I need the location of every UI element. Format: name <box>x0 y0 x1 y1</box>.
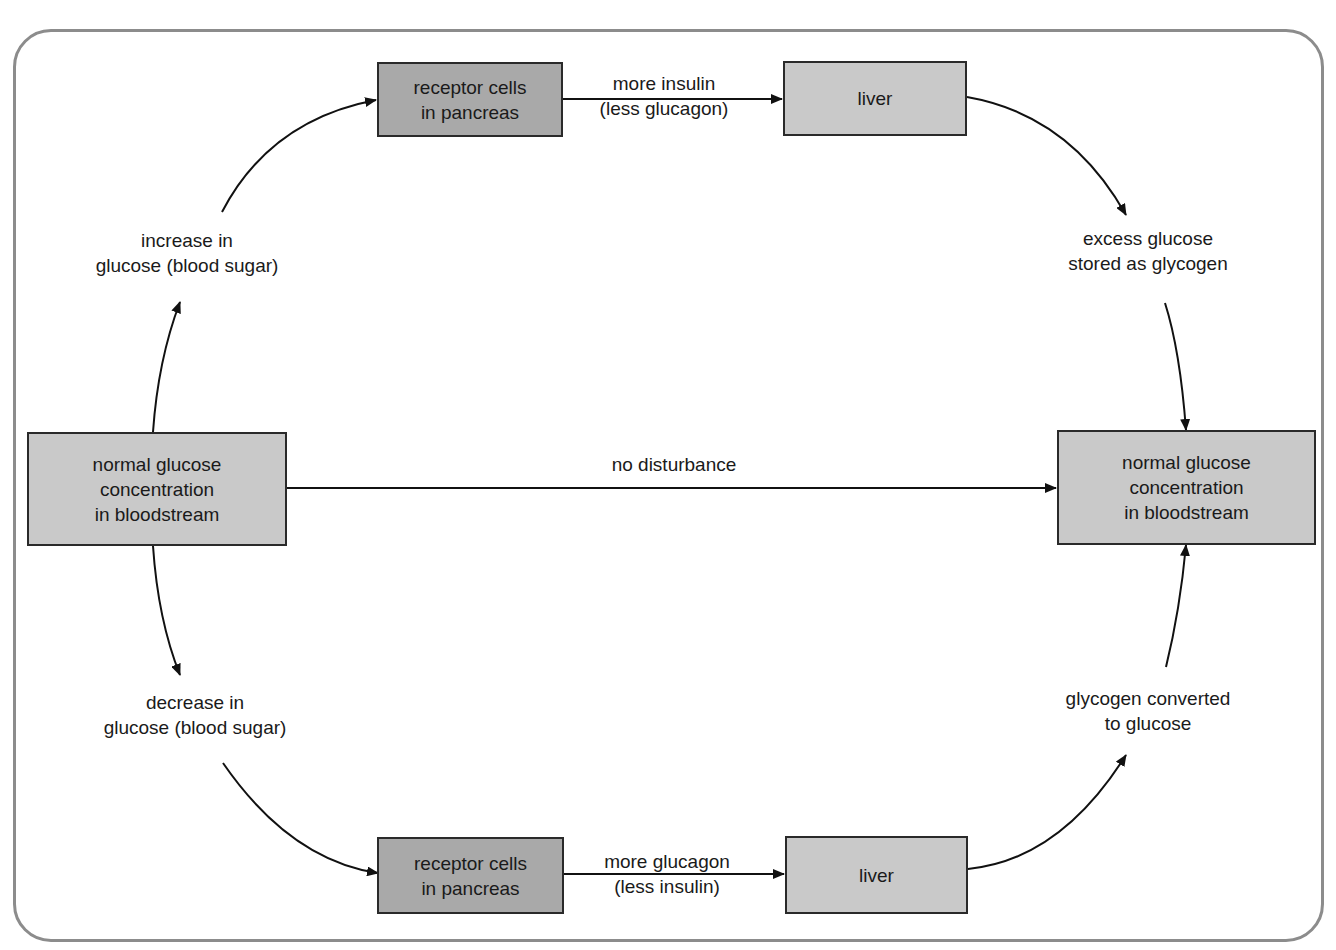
label-text: more glucagon <box>604 849 730 874</box>
arrow-stored-to-end <box>1165 303 1186 430</box>
box-text: in bloodstream <box>1122 500 1251 525</box>
box-text: receptor cells <box>414 851 527 876</box>
box-text: liver <box>858 86 893 111</box>
box-text: in bloodstream <box>93 502 222 527</box>
liver-box-bottom: liver <box>785 836 968 914</box>
arrow-liver-to-stored <box>967 97 1126 215</box>
increase-glucose-label: increase in glucose (blood sugar) <box>96 228 279 278</box>
more-glucagon-label: more glucagon (less insulin) <box>604 849 730 899</box>
arrow-increase-to-pancreas <box>222 100 376 212</box>
arrow-decrease-to-pancreas <box>223 763 378 873</box>
arrow-start-to-increase <box>153 302 180 432</box>
label-text: more insulin <box>600 71 729 96</box>
label-text: no disturbance <box>612 452 737 477</box>
label-text: to glucose <box>1066 711 1231 736</box>
arrow-start-to-decrease <box>153 546 180 675</box>
liver-box-top: liver <box>783 61 967 136</box>
decrease-glucose-label: decrease in glucose (blood sugar) <box>104 690 287 740</box>
arrow-converted-to-end <box>1166 545 1186 667</box>
pancreas-receptor-box-top: receptor cells in pancreas <box>377 62 563 137</box>
box-text: in pancreas <box>414 100 527 125</box>
label-text: (less glucagon) <box>600 96 729 121</box>
pancreas-receptor-box-bottom: receptor cells in pancreas <box>377 837 564 914</box>
glycogen-converted-label: glycogen converted to glucose <box>1066 686 1231 736</box>
label-text: glucose (blood sugar) <box>104 715 287 740</box>
glycogen-stored-label: excess glucose stored as glycogen <box>1068 226 1228 276</box>
label-text: stored as glycogen <box>1068 251 1228 276</box>
box-text: concentration <box>93 477 222 502</box>
box-text: normal glucose <box>1122 450 1251 475</box>
no-disturbance-label: no disturbance <box>612 452 737 477</box>
box-text: normal glucose <box>93 452 222 477</box>
label-text: (less insulin) <box>604 874 730 899</box>
normal-glucose-start-box: normal glucose concentration in bloodstr… <box>27 432 287 546</box>
box-text: receptor cells <box>414 75 527 100</box>
box-text: liver <box>859 863 894 888</box>
label-text: decrease in <box>104 690 287 715</box>
box-text: in pancreas <box>414 876 527 901</box>
label-text: excess glucose <box>1068 226 1228 251</box>
arrow-liver-to-converted <box>968 755 1126 869</box>
more-insulin-label: more insulin (less glucagon) <box>600 71 729 121</box>
box-text: concentration <box>1122 475 1251 500</box>
label-text: glucose (blood sugar) <box>96 253 279 278</box>
label-text: glycogen converted <box>1066 686 1231 711</box>
label-text: increase in <box>96 228 279 253</box>
normal-glucose-end-box: normal glucose concentration in bloodstr… <box>1057 430 1316 545</box>
